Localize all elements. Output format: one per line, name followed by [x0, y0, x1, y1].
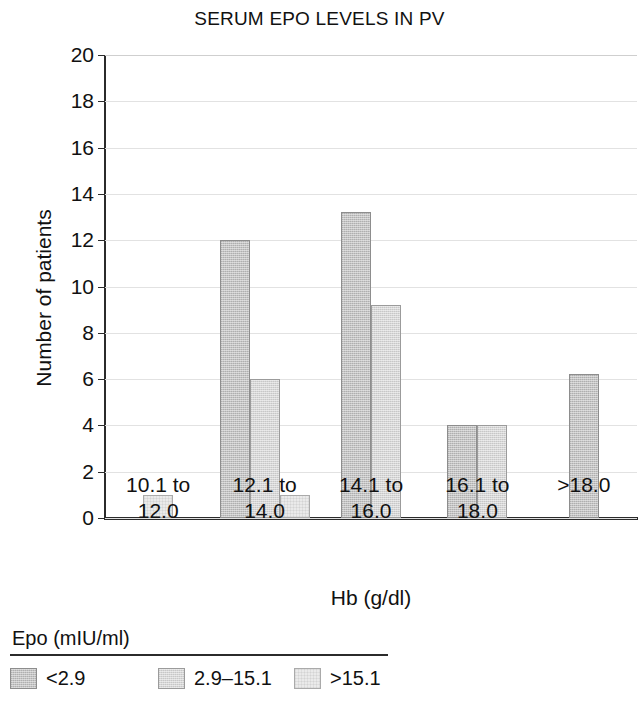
gridline — [105, 55, 637, 56]
legend-label: 2.9–15.1 — [194, 667, 272, 690]
y-tick-label: 8 — [82, 321, 94, 345]
legend-items: <2.92.9–15.1>15.1 — [10, 667, 400, 690]
legend-title: Epo (mIU/ml) — [10, 627, 400, 650]
y-tick-mark — [98, 194, 105, 195]
legend-item: 2.9–15.1 — [158, 667, 272, 690]
x-tick-label: >18.0 — [557, 472, 610, 498]
y-tick-mark — [98, 379, 105, 380]
x-tick-label: 16.1 to18.0 — [445, 472, 509, 524]
chart-figure: SERUM EPO LEVELS IN PV Number of patient… — [0, 0, 639, 703]
gridline — [105, 240, 637, 241]
y-tick-mark — [98, 55, 105, 56]
y-tick-label: 18 — [71, 89, 94, 113]
y-tick-mark — [98, 472, 105, 473]
legend-item: >15.1 — [294, 667, 381, 690]
y-tick-mark — [98, 240, 105, 241]
y-tick-label: 12 — [71, 228, 94, 252]
x-tick-label: 14.1 to16.0 — [339, 472, 403, 524]
y-tick-label: 16 — [71, 136, 94, 160]
y-tick-mark — [98, 518, 105, 519]
legend-swatch — [294, 668, 321, 689]
x-tick-label: 10.1 to12.0 — [126, 472, 190, 524]
x-tick-label: 12.1 to14.0 — [232, 472, 296, 524]
y-tick-mark — [98, 101, 105, 102]
legend-label: <2.9 — [46, 667, 85, 690]
y-tick-label: 20 — [71, 43, 94, 67]
x-axis-title: Hb (g/dl) — [105, 586, 637, 610]
legend-item: <2.9 — [10, 667, 85, 690]
y-tick-label: 0 — [82, 506, 94, 530]
y-tick-mark — [98, 333, 105, 334]
y-axis-title: Number of patients — [32, 158, 56, 438]
legend-divider — [10, 654, 388, 656]
y-tick-label: 14 — [71, 182, 94, 206]
legend-swatch — [158, 668, 185, 689]
y-tick-label: 6 — [82, 367, 94, 391]
y-tick-label: 4 — [82, 413, 94, 437]
legend-swatch — [10, 668, 37, 689]
gridline — [105, 148, 637, 149]
y-tick-label: 2 — [82, 460, 94, 484]
gridline — [105, 101, 637, 102]
chart-title: SERUM EPO LEVELS IN PV — [0, 8, 639, 30]
gridline — [105, 194, 637, 195]
legend-label: >15.1 — [330, 667, 381, 690]
y-tick-mark — [98, 287, 105, 288]
y-tick-label: 10 — [71, 275, 94, 299]
plot-area: 02468101214161820 — [105, 55, 637, 518]
gridline — [105, 287, 637, 288]
y-tick-mark — [98, 425, 105, 426]
y-tick-mark — [98, 148, 105, 149]
legend: Epo (mIU/ml) <2.92.9–15.1>15.1 — [10, 627, 400, 690]
